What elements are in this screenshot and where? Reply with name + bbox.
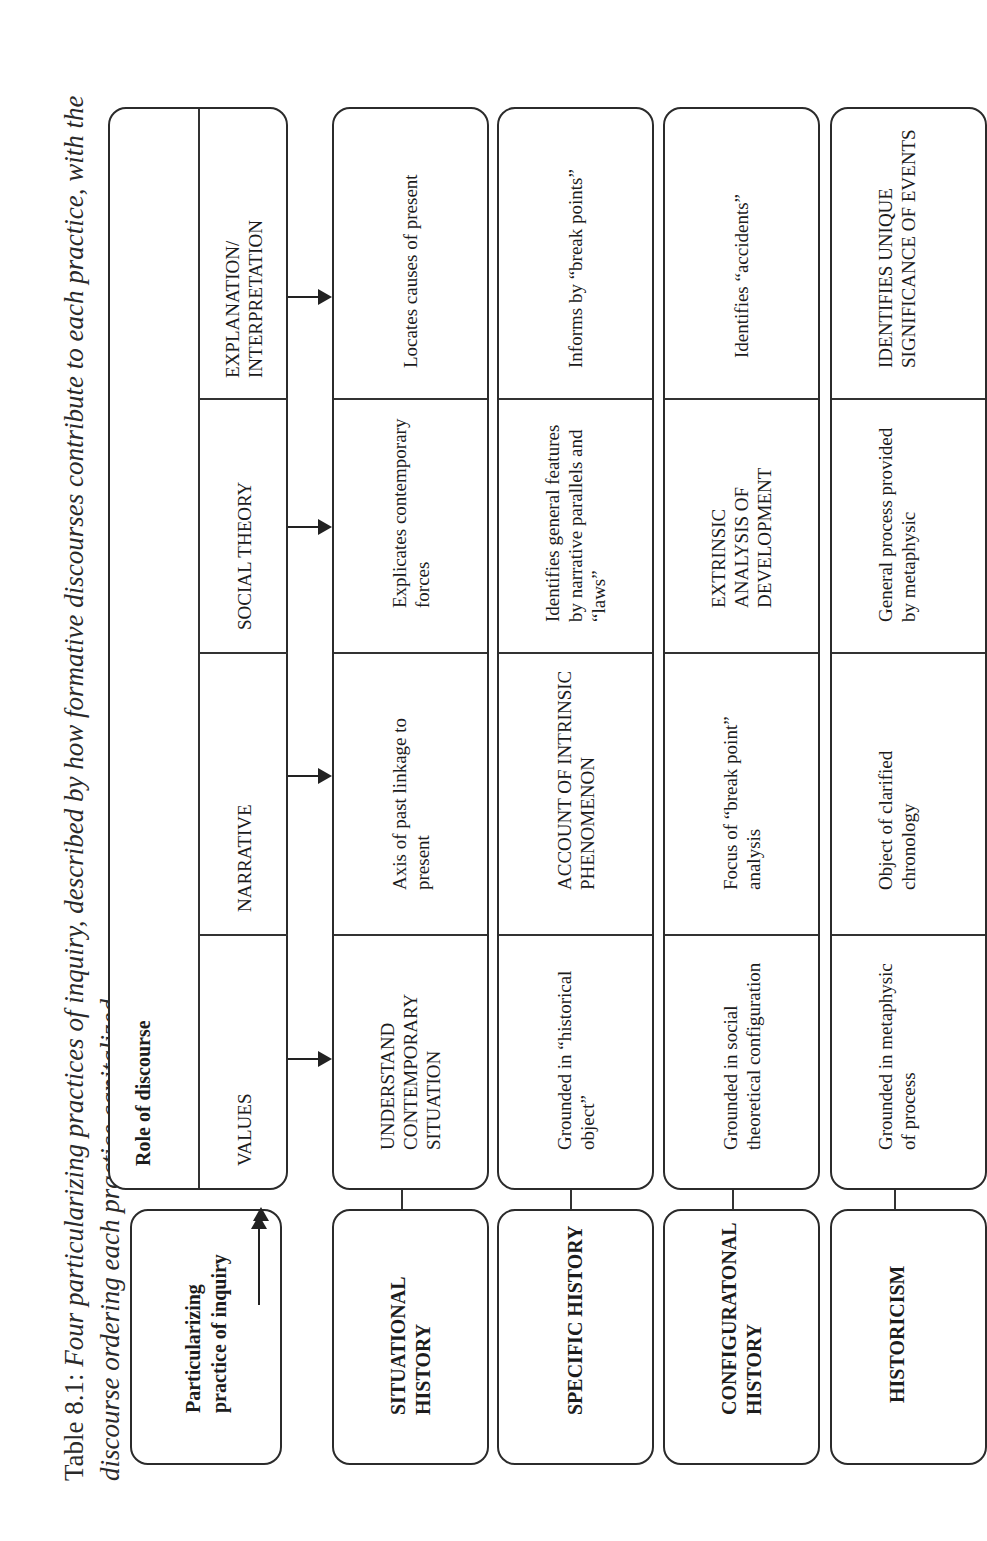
cell-divider: [665, 935, 818, 937]
cell-divider: [499, 399, 652, 401]
practice-to-rows-arrow-icon: [258, 1217, 260, 1305]
row-practice-label: SITUATIONAL HISTORY: [334, 1211, 487, 1463]
column-header-narrative: NARRATIVE: [200, 654, 288, 934]
narrative-arrow-icon: [288, 776, 330, 778]
cell-values: Grounded in social theoretical configura…: [665, 936, 818, 1188]
cell-narrative: Object of clarified chronology: [832, 654, 962, 934]
cell-divider: [832, 935, 985, 937]
column-header-values: VALUES: [200, 936, 288, 1188]
row-label-box: SITUATIONAL HISTORY: [332, 1209, 489, 1465]
cell-divider: [499, 653, 652, 655]
cell-divider: [334, 653, 487, 655]
row-connector: [570, 1190, 572, 1209]
header-col-divider: [200, 935, 288, 937]
row-practice-label: CONFIGURATONAL HISTORY: [665, 1211, 818, 1463]
role-header-label: Role of discourse: [110, 109, 177, 1188]
cell-social-theory: General process provided by metaphysic: [832, 400, 962, 652]
row-label-box: SPECIFIC HISTORY: [497, 1209, 654, 1465]
row-label-box: HISTORICISM: [830, 1209, 987, 1465]
cell-divider: [499, 935, 652, 937]
social-theory-arrow-icon: [288, 527, 330, 529]
role-header-box: Role of discourse VALUES NARRATIVE SOCIA…: [108, 107, 288, 1190]
values-arrow-icon: [288, 1059, 330, 1061]
cell-social-theory: EXTRINSIC ANALYSIS OF DEVELOPMENT: [665, 400, 818, 652]
row-connector: [732, 1190, 734, 1209]
cell-explanation: Informs by “break points”: [499, 108, 652, 398]
cell-narrative: Focus of “break point” analysis: [665, 654, 818, 934]
caption-label: Table 8.1:: [59, 1373, 89, 1481]
cell-divider: [665, 653, 818, 655]
row-content-box: Grounded in social theoretical configura…: [663, 107, 820, 1190]
cell-social-theory: Explicates contemporary forces: [334, 400, 487, 652]
column-header-explanation: EXPLANATION/ INTERPRETATION: [200, 108, 288, 398]
cell-values: Grounded in metaphysic of process: [832, 936, 962, 1188]
cell-divider: [334, 935, 487, 937]
row-connector: [894, 1190, 896, 1209]
cell-explanation: Locates causes of present: [334, 108, 487, 398]
header-col-divider: [200, 653, 288, 655]
cell-explanation: IDENTIFIES UNIQUE SIGNIFICANCE OF EVENTS: [832, 108, 962, 398]
cell-divider: [832, 399, 985, 401]
cell-values: Grounded in “historical object”: [499, 936, 652, 1188]
cell-values: UNDERSTAND CONTEMPORARY SITUATION: [334, 936, 487, 1188]
cell-social-theory: Identifies general features by narrative…: [499, 400, 652, 652]
cell-narrative: Axis of past linkage to present: [334, 654, 487, 934]
cell-explanation: Identifies “accidents”: [665, 108, 818, 398]
cell-divider: [665, 399, 818, 401]
row-practice-label: HISTORICISM: [832, 1211, 962, 1463]
row-content-box: UNDERSTAND CONTEMPORARY SITUATION Axis o…: [332, 107, 489, 1190]
row-label-box: CONFIGURATONAL HISTORY: [663, 1209, 820, 1465]
column-header-social-theory: SOCIAL THEORY: [200, 400, 288, 652]
row-practice-label: SPECIFIC HISTORY: [499, 1211, 652, 1463]
cell-divider: [832, 653, 985, 655]
row-content-box: Grounded in “historical object” ACCOUNT …: [497, 107, 654, 1190]
row-content-box: Grounded in metaphysic of process Object…: [830, 107, 987, 1190]
row-connector: [401, 1190, 403, 1209]
header-col-divider: [200, 399, 288, 401]
explanation-arrow-icon: [288, 297, 330, 299]
cell-divider: [334, 399, 487, 401]
cell-narrative: ACCOUNT OF INTRINSIC PHENOMENON: [499, 654, 652, 934]
